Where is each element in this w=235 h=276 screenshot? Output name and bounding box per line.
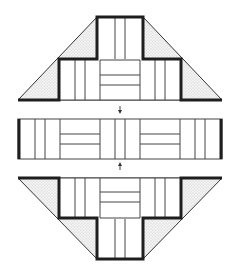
middle-band [18,119,222,159]
lower-section [18,178,222,259]
upper-section [18,17,222,100]
down-arrow [118,106,122,114]
up-arrow [118,162,122,170]
diagram-canvas [0,0,235,276]
